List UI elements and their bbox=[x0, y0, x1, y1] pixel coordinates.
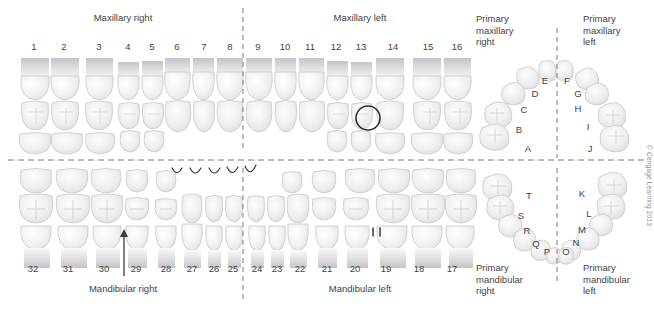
tooth-occlusal bbox=[182, 194, 202, 223]
tooth-number-19: 19 bbox=[376, 263, 396, 274]
tooth-occlusal bbox=[247, 196, 264, 223]
tooth-facial bbox=[345, 226, 370, 268]
tooth-lingual bbox=[375, 133, 404, 155]
tooth-number-16: 16 bbox=[447, 41, 467, 52]
tooth-lingual bbox=[120, 131, 140, 153]
tooth-facial bbox=[226, 226, 243, 268]
maxillary-occlusal-row bbox=[22, 101, 472, 133]
tooth-facial bbox=[51, 58, 79, 100]
primary-tooth-letter-R: R bbox=[520, 225, 534, 236]
tooth-occlusal bbox=[225, 196, 242, 223]
tooth-number-22: 22 bbox=[290, 263, 310, 274]
primary-tooth-letter-F: F bbox=[560, 75, 574, 86]
primary-tooth-letter-M: M bbox=[575, 224, 589, 235]
primary-tooth-B bbox=[485, 102, 512, 127]
tooth-facial bbox=[165, 58, 190, 100]
tooth-lingual bbox=[91, 169, 120, 194]
primary-tooth-letter-I: I bbox=[581, 121, 595, 132]
tooth-number-13: 13 bbox=[351, 41, 371, 52]
tooth-facial bbox=[376, 58, 404, 100]
tooth-occlusal bbox=[193, 101, 214, 133]
tooth-facial bbox=[21, 226, 51, 268]
tooth-number-25: 25 bbox=[223, 263, 243, 274]
tooth-occlusal bbox=[22, 101, 49, 130]
tooth-number-5: 5 bbox=[142, 41, 162, 52]
tooth-occlusal bbox=[377, 101, 404, 130]
tooth-facial bbox=[275, 58, 297, 100]
primary-tooth-J bbox=[600, 125, 629, 151]
tooth-lingual bbox=[411, 133, 442, 155]
primary-tooth-letter-S: S bbox=[514, 210, 528, 221]
tooth-occlusal bbox=[414, 101, 441, 130]
header-mandibular-right: Mandibular right bbox=[0, 283, 246, 294]
maxillary-facial-row bbox=[21, 58, 471, 100]
primary-tooth-letter-G: G bbox=[571, 88, 585, 99]
tooth-lingual bbox=[345, 169, 374, 194]
header-primary-mandibular-left: Primary mandibular left bbox=[583, 262, 630, 297]
primary-tooth-letter-A: A bbox=[521, 143, 535, 154]
tooth-lingual bbox=[85, 133, 114, 155]
tooth-lingual bbox=[351, 131, 371, 153]
tooth-number-15: 15 bbox=[418, 41, 438, 52]
primary-tooth-A bbox=[480, 124, 509, 150]
tooth-number-29: 29 bbox=[126, 263, 146, 274]
primary-tooth-C bbox=[502, 82, 526, 105]
tooth-facial bbox=[86, 58, 113, 100]
tooth-lingual bbox=[312, 171, 336, 194]
header-mandibular-left: Mandibular left bbox=[246, 283, 474, 294]
header-maxillary-left: Maxillary left bbox=[246, 12, 474, 23]
tooth-occlusal bbox=[205, 196, 222, 223]
tooth-facial bbox=[288, 224, 309, 268]
tooth-facial bbox=[413, 58, 441, 100]
tooth-number-1: 1 bbox=[24, 41, 44, 52]
mandibular-facial-row bbox=[21, 224, 474, 268]
tooth-facial bbox=[377, 226, 407, 268]
tooth-lingual bbox=[378, 169, 409, 194]
tooth-number-17: 17 bbox=[442, 263, 462, 274]
tooth-number-7: 7 bbox=[194, 41, 214, 52]
tooth-number-14: 14 bbox=[383, 41, 403, 52]
tooth-lingual bbox=[412, 169, 443, 194]
tooth-number-8: 8 bbox=[220, 41, 240, 52]
tooth-number-21: 21 bbox=[317, 263, 337, 274]
tooth-number-27: 27 bbox=[182, 263, 202, 274]
primary-tooth-letter-H: H bbox=[571, 103, 585, 114]
tooth-number-24: 24 bbox=[247, 263, 267, 274]
tooth-facial bbox=[126, 226, 149, 268]
tooth-occlusal bbox=[52, 101, 79, 130]
tooth-occlusal bbox=[287, 194, 309, 223]
tooth-facial bbox=[412, 226, 442, 268]
maxillary-lingual-row bbox=[19, 131, 472, 155]
tooth-number-18: 18 bbox=[409, 263, 429, 274]
tooth-occlusal bbox=[246, 101, 272, 133]
tooth-occlusal bbox=[165, 101, 191, 133]
tooth-facial bbox=[299, 58, 324, 100]
primary-tooth-letter-D: D bbox=[528, 88, 542, 99]
tooth-lingual bbox=[446, 169, 475, 194]
tooth-number-10: 10 bbox=[275, 41, 295, 52]
tooth-occlusal bbox=[86, 101, 113, 130]
tooth-number-12: 12 bbox=[326, 41, 346, 52]
tooth-facial bbox=[351, 62, 373, 100]
header-primary-mandibular-right: Primary mandibular right bbox=[476, 262, 523, 297]
header-primary-maxillary-left: Primary maxillary left bbox=[583, 13, 620, 48]
tooth-facial bbox=[93, 226, 121, 268]
header-primary-maxillary-right: Primary maxillary right bbox=[476, 13, 513, 48]
tooth-facial bbox=[446, 226, 474, 268]
tooth-lingual bbox=[327, 131, 347, 153]
tooth-number-28: 28 bbox=[156, 263, 176, 274]
tooth-occlusal bbox=[327, 103, 348, 130]
tooth-occlusal bbox=[275, 101, 296, 133]
tooth-lingual bbox=[144, 131, 164, 153]
tooth-facial bbox=[58, 226, 88, 268]
tooth-facial bbox=[142, 61, 164, 100]
tooth-lingual bbox=[19, 133, 50, 155]
mandibular-arch-group bbox=[19, 165, 476, 268]
tooth-occlusal bbox=[118, 103, 139, 130]
tooth-facial bbox=[316, 226, 339, 268]
tooth-lingual bbox=[51, 133, 82, 155]
tooth-facial bbox=[217, 58, 243, 100]
tooth-facial bbox=[249, 226, 266, 268]
tooth-number-3: 3 bbox=[89, 41, 109, 52]
primary-tooth-letter-P: P bbox=[540, 246, 554, 257]
